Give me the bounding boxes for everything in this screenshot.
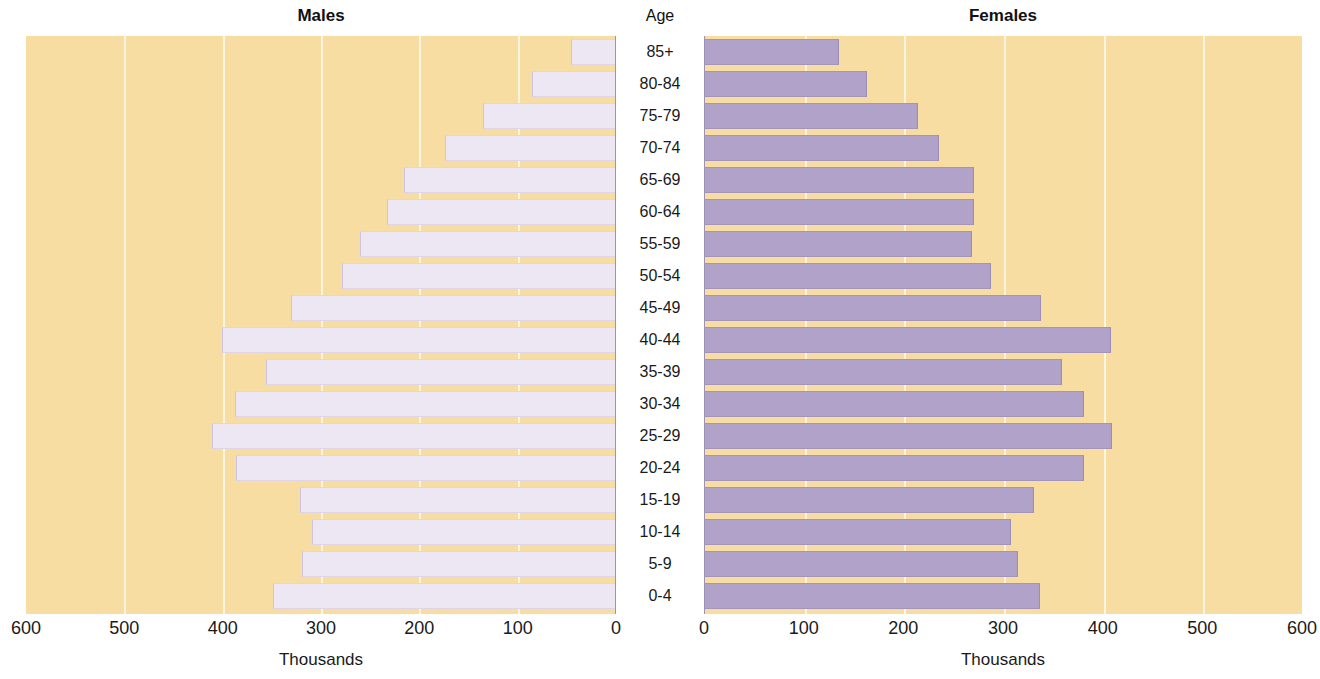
females-x-axis: 0100200300400500600	[704, 618, 1302, 642]
male-bar-row	[26, 260, 615, 292]
male-bar-row	[26, 420, 615, 452]
age-label-85+: 85+	[616, 36, 704, 68]
age-label-10-14: 10-14	[616, 516, 704, 548]
age-label-15-19: 15-19	[616, 484, 704, 516]
age-label-column: 85+80-8475-7970-7465-6960-6455-5950-5445…	[616, 36, 704, 614]
females-panel-title: Females	[704, 6, 1302, 26]
bar-female-20-24	[705, 455, 1084, 481]
age-label-70-74: 70-74	[616, 132, 704, 164]
males-axis-caption: Thousands	[26, 650, 616, 670]
males-x-axis: 6005004003002001000	[26, 618, 616, 642]
female-bar-row	[705, 324, 1302, 356]
bar-male-55-59	[360, 231, 615, 257]
female-bar-row	[705, 356, 1302, 388]
age-label-65-69: 65-69	[616, 164, 704, 196]
females-tick-600: 600	[1287, 618, 1317, 639]
female-bar-row	[705, 196, 1302, 228]
bar-female-15-19	[705, 487, 1034, 513]
age-label-55-59: 55-59	[616, 228, 704, 260]
population-pyramid-chart: Males Age Females 85+80-8475-7970-7465-6…	[0, 0, 1320, 679]
bar-male-75-79	[483, 103, 615, 129]
male-bar-row	[26, 36, 615, 68]
bar-male-85+	[571, 39, 615, 65]
bar-female-30-34	[705, 391, 1084, 417]
males-tick-500: 500	[109, 618, 139, 639]
age-label-20-24: 20-24	[616, 452, 704, 484]
males-plot-area	[26, 36, 616, 614]
male-bar-row	[26, 196, 615, 228]
female-bar-row	[705, 36, 1302, 68]
males-tick-400: 400	[208, 618, 238, 639]
bar-male-70-74	[445, 135, 615, 161]
bar-male-5-9	[302, 551, 615, 577]
bar-male-40-44	[222, 327, 615, 353]
males-tick-0: 0	[611, 618, 621, 639]
age-label-35-39: 35-39	[616, 356, 704, 388]
bar-female-55-59	[705, 231, 972, 257]
bar-female-0-4	[705, 583, 1040, 609]
male-bar-row	[26, 548, 615, 580]
bar-female-80-84	[705, 71, 867, 97]
male-bar-row	[26, 484, 615, 516]
bar-male-15-19	[300, 487, 615, 513]
bar-female-25-29	[705, 423, 1112, 449]
males-tick-600: 600	[11, 618, 41, 639]
bar-female-75-79	[705, 103, 918, 129]
age-label-80-84: 80-84	[616, 68, 704, 100]
male-bar-row	[26, 132, 615, 164]
females-tick-500: 500	[1187, 618, 1217, 639]
bar-male-25-29	[212, 423, 615, 449]
bar-female-85+	[705, 39, 839, 65]
females-axis-caption: Thousands	[704, 650, 1302, 670]
female-bar-row	[705, 292, 1302, 324]
females-tick-400: 400	[1088, 618, 1118, 639]
male-bar-row	[26, 68, 615, 100]
bar-female-45-49	[705, 295, 1041, 321]
bar-male-0-4	[273, 583, 615, 609]
males-panel-title: Males	[26, 6, 616, 26]
female-bar-row	[705, 420, 1302, 452]
female-bar-row	[705, 228, 1302, 260]
male-bar-row	[26, 292, 615, 324]
bar-female-10-14	[705, 519, 1011, 545]
bar-male-10-14	[312, 519, 615, 545]
male-bar-row	[26, 356, 615, 388]
bar-male-80-84	[532, 71, 615, 97]
bar-male-65-69	[404, 167, 615, 193]
females-tick-200: 200	[888, 618, 918, 639]
bar-male-45-49	[291, 295, 616, 321]
bar-female-65-69	[705, 167, 974, 193]
age-label-45-49: 45-49	[616, 292, 704, 324]
female-bar-row	[705, 580, 1302, 612]
bar-male-35-39	[266, 359, 615, 385]
female-bar-row	[705, 260, 1302, 292]
female-bar-row	[705, 548, 1302, 580]
bar-female-70-74	[705, 135, 939, 161]
female-bar-row	[705, 484, 1302, 516]
males-tick-300: 300	[306, 618, 336, 639]
males-tick-100: 100	[503, 618, 533, 639]
bar-male-50-54	[342, 263, 615, 289]
age-label-0-4: 0-4	[616, 580, 704, 612]
bar-male-20-24	[236, 455, 615, 481]
age-label-50-54: 50-54	[616, 260, 704, 292]
bar-male-60-64	[387, 199, 615, 225]
bar-female-35-39	[705, 359, 1062, 385]
females-tick-0: 0	[699, 618, 709, 639]
age-label-5-9: 5-9	[616, 548, 704, 580]
bar-female-50-54	[705, 263, 991, 289]
bar-female-40-44	[705, 327, 1111, 353]
age-label-60-64: 60-64	[616, 196, 704, 228]
females-tick-100: 100	[789, 618, 819, 639]
male-bar-row	[26, 580, 615, 612]
female-bar-row	[705, 516, 1302, 548]
bar-female-5-9	[705, 551, 1018, 577]
female-bar-row	[705, 452, 1302, 484]
bar-female-60-64	[705, 199, 974, 225]
male-bar-row	[26, 164, 615, 196]
male-bar-row	[26, 452, 615, 484]
age-column-title: Age	[616, 7, 704, 25]
female-bar-row	[705, 100, 1302, 132]
age-label-40-44: 40-44	[616, 324, 704, 356]
female-bar-row	[705, 164, 1302, 196]
